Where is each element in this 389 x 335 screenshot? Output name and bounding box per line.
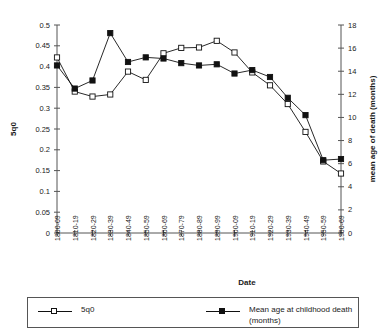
x-ticklabel: 1960-69 — [338, 215, 345, 241]
x-ticklabel: 1930-39 — [285, 215, 292, 241]
y-ticklabel-right: 6 — [348, 159, 352, 168]
data-point-0 — [196, 45, 201, 50]
legend-marker-filled-square-icon — [206, 306, 240, 316]
data-point-0 — [214, 38, 219, 43]
data-point-1 — [267, 74, 272, 79]
y-ticklabel-left: 0.2 — [40, 145, 50, 154]
data-point-1 — [232, 71, 237, 76]
y-ticklabel-right: 14 — [348, 67, 356, 76]
x-ticklabel: 1800-09 — [54, 215, 61, 241]
data-point-0 — [143, 77, 148, 82]
plot-area: 00.050.10.150.20.250.30.350.40.450.50246… — [0, 0, 389, 290]
y-ticklabel-right: 16 — [348, 44, 356, 53]
y-axis-title-left: 5q0 — [9, 122, 18, 136]
x-ticklabel: 1890-99 — [214, 215, 221, 241]
data-point-1 — [72, 86, 77, 91]
x-ticklabel: 1910-19 — [249, 215, 256, 241]
data-point-0 — [303, 129, 308, 134]
y-ticklabel-right: 18 — [348, 21, 356, 30]
y-ticklabel-right: 10 — [348, 113, 356, 122]
x-ticklabel: 1920-29 — [267, 215, 274, 241]
data-point-0 — [267, 83, 272, 88]
data-point-1 — [179, 61, 184, 66]
y-ticklabel-right: 12 — [348, 90, 356, 99]
x-ticklabel: 1850-59 — [143, 215, 150, 241]
legend-item-1: Mean age at childhood death (months) — [206, 305, 358, 326]
data-point-1 — [143, 55, 148, 60]
x-axis-title: Date — [238, 278, 256, 287]
data-point-1 — [196, 63, 201, 68]
data-point-1 — [161, 56, 166, 61]
data-point-0 — [108, 92, 113, 97]
x-ticklabel: 1870-79 — [178, 215, 185, 241]
data-point-1 — [214, 62, 219, 67]
x-ticklabel: 1820-29 — [90, 215, 97, 241]
y-ticklabel-left: 0.35 — [35, 83, 50, 92]
x-ticklabel: 1840-49 — [125, 215, 132, 241]
legend-marker-open-square-icon — [38, 306, 72, 316]
data-point-1 — [125, 59, 130, 64]
y-ticklabel-right: 4 — [348, 182, 352, 191]
y-ticklabel-right: 8 — [348, 136, 352, 145]
y-ticklabel-left: 0.15 — [35, 166, 50, 175]
data-point-1 — [90, 78, 95, 83]
legend-label-1: Mean age at childhood death (months) — [249, 305, 358, 326]
data-point-1 — [303, 113, 308, 118]
data-point-1 — [250, 67, 255, 72]
chart-svg: 00.050.10.150.20.250.30.350.40.450.50246… — [0, 0, 389, 290]
data-point-0 — [54, 55, 59, 60]
y-ticklabel-left: 0.1 — [40, 187, 50, 196]
y-ticklabel-left: 0.05 — [35, 208, 50, 217]
data-point-0 — [179, 45, 184, 50]
data-point-0 — [125, 69, 130, 74]
y-ticklabel-left: 0 — [46, 229, 50, 238]
y-ticklabel-right: 2 — [348, 205, 352, 214]
data-point-1 — [285, 95, 290, 100]
data-point-1 — [108, 30, 113, 35]
x-ticklabel: 1810-19 — [72, 215, 79, 241]
legend-label-0: 5q0 — [81, 305, 94, 316]
y-ticklabel-left: 0.3 — [40, 104, 50, 113]
chart-figure: 00.050.10.150.20.250.30.350.40.450.50246… — [0, 0, 389, 335]
data-point-1 — [321, 158, 326, 163]
y-ticklabel-left: 0.25 — [35, 125, 50, 134]
x-ticklabel: 1900-09 — [232, 215, 239, 241]
data-point-1 — [338, 156, 343, 161]
data-point-0 — [338, 171, 343, 176]
chart-legend: 5q0 Mean age at childhood death (months) — [27, 297, 359, 328]
y-ticklabel-left: 0.5 — [40, 21, 50, 30]
y-axis-title-right: mean age of death (months) — [368, 75, 377, 182]
y-ticklabel-left: 0.45 — [35, 41, 50, 50]
data-point-0 — [161, 51, 166, 56]
y-ticklabel-right: 0 — [348, 229, 352, 238]
data-point-0 — [232, 50, 237, 55]
legend-item-0: 5q0 — [38, 305, 94, 316]
x-ticklabel: 1860-69 — [161, 215, 168, 241]
x-ticklabel: 1950-59 — [320, 215, 327, 241]
y-ticklabel-left: 0.4 — [40, 62, 50, 71]
data-point-0 — [285, 101, 290, 106]
data-point-0 — [90, 94, 95, 99]
x-ticklabel: 1880-89 — [196, 215, 203, 241]
data-point-1 — [54, 63, 59, 68]
series-line-1 — [57, 33, 341, 160]
x-ticklabel: 1940-49 — [303, 215, 310, 241]
x-ticklabel: 1830-39 — [107, 215, 114, 241]
